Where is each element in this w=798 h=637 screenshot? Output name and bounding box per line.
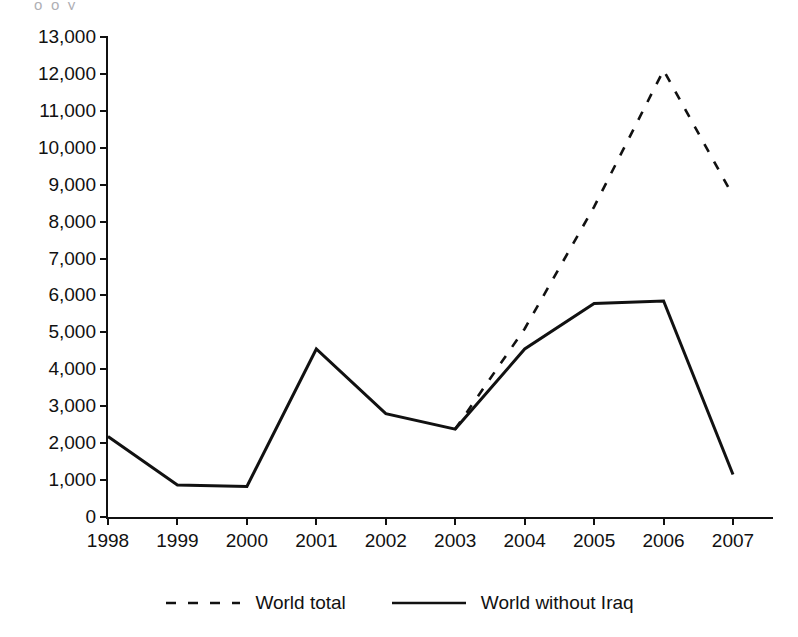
series-line-world-total	[455, 70, 733, 429]
chart-legend: World total World without Iraq	[0, 592, 798, 614]
solid-line-swatch	[390, 597, 468, 609]
legend-item-world-without-iraq: World without Iraq	[390, 592, 634, 614]
legend-item-world-total: World total	[164, 592, 345, 614]
series-line-world-without-iraq	[108, 301, 733, 486]
series-paths	[0, 0, 798, 637]
legend-label-world-without-iraq: World without Iraq	[481, 592, 634, 614]
legend-label-world-total: World total	[255, 592, 345, 614]
line-chart: o o y 01,0002,0003,0004,0005,0006,0007,0…	[0, 0, 798, 637]
dashed-line-swatch	[164, 597, 242, 609]
